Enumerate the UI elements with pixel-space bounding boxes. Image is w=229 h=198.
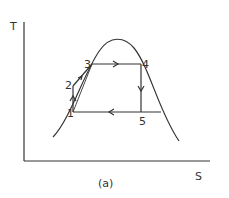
point-1-label: 1 — [67, 107, 74, 120]
y-axis-label: T — [9, 20, 17, 33]
point-2-label: 2 — [65, 79, 72, 92]
caption: (a) — [98, 177, 113, 190]
ts-diagram: T S (a) 1 2 3 4 5 — [0, 0, 229, 198]
point-5-label: 5 — [139, 115, 146, 128]
liquid-line-1-3 — [73, 64, 92, 112]
x-axis-label: S — [195, 170, 202, 183]
point-4-label: 4 — [142, 58, 149, 71]
point-3-label: 3 — [84, 58, 91, 71]
